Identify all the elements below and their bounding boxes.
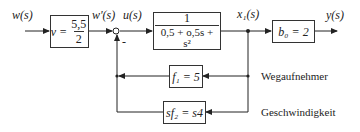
feedback-position-block: f₁ = 5 (169, 65, 203, 88)
plant-denominator: 0,5 + o,5s + s² (155, 25, 220, 50)
prefilter-lhs: v = (51, 26, 67, 38)
junction-minus-sign: - (122, 36, 126, 48)
plant-block: 1 0,5 + o,5s + s² (153, 12, 221, 50)
signal-label-output: y(s) (326, 9, 344, 21)
prefilter-numerator: 5,5 (69, 18, 88, 31)
feedback-velocity-block: sf₂ = s4 (163, 101, 206, 124)
plant-numerator: 1 (182, 12, 192, 25)
label-velocity: Geschwindigkeit (261, 107, 336, 118)
signal-label-input: w(s) (12, 9, 33, 21)
prefilter-denominator: 2 (74, 31, 84, 46)
label-position-sensor: Wegaufnehmer (261, 71, 328, 82)
prefilter-fraction: 5,5 2 (69, 18, 88, 45)
plant-fraction: 1 0,5 + o,5s + s² (154, 12, 220, 50)
signal-label-state: x₁(s) (237, 8, 259, 20)
signal-label-scaled-input: w'(s) (92, 9, 115, 21)
signal-label-control: u(s) (123, 9, 142, 21)
prefilter-block: v = 5,5 2 (50, 15, 89, 48)
output-gain-block: b₀ = 2 (272, 20, 315, 43)
